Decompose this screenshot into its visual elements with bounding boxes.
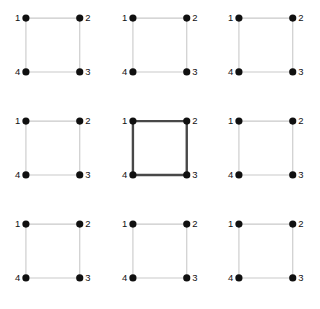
graph-node-label-3: 3 <box>299 66 304 77</box>
graph-node-2 <box>76 118 83 125</box>
graph-node-3 <box>289 68 296 75</box>
graph-node-1 <box>236 118 243 125</box>
graph-node-label-4: 4 <box>15 66 20 77</box>
graph-node-2 <box>183 221 190 228</box>
graph-node-label-4: 4 <box>228 66 233 77</box>
graph-node-4 <box>129 171 136 178</box>
graph-node-3 <box>183 274 190 281</box>
graph-node-label-2: 2 <box>299 218 304 229</box>
graph-node-label-4: 4 <box>228 272 233 283</box>
graph-drawing: 1234 <box>0 103 107 206</box>
graph-node-1 <box>22 221 29 228</box>
graph-node-label-4: 4 <box>15 272 20 283</box>
graph-node-label-2: 2 <box>299 12 304 23</box>
graph-node-3 <box>76 68 83 75</box>
graph-node-2 <box>183 118 190 125</box>
graph-node-label-2: 2 <box>192 115 197 126</box>
graph-node-label-1: 1 <box>15 115 20 126</box>
graph-node-label-2: 2 <box>299 115 304 126</box>
graph-node-label-2: 2 <box>85 218 90 229</box>
graph-node-1 <box>22 118 29 125</box>
graph-node-label-1: 1 <box>15 218 20 229</box>
graph-node-4 <box>22 68 29 75</box>
graph-node-4 <box>129 68 136 75</box>
graph-node-4 <box>129 274 136 281</box>
graph-drawing: 1234 <box>213 206 320 309</box>
graph-node-label-1: 1 <box>15 12 20 23</box>
graph-node-3 <box>183 68 190 75</box>
graph-drawing: 1234 <box>0 0 107 103</box>
graph-drawing: 1234 <box>0 206 107 309</box>
graph-node-1 <box>129 221 136 228</box>
graph-node-4 <box>236 68 243 75</box>
graph-node-2 <box>289 15 296 22</box>
graph-node-4 <box>236 274 243 281</box>
graph-node-label-3: 3 <box>85 66 90 77</box>
graph-node-label-1: 1 <box>122 218 127 229</box>
graph-node-label-2: 2 <box>192 12 197 23</box>
graph-node-label-1: 1 <box>122 12 127 23</box>
graph-panel-7: 1234 <box>0 206 107 309</box>
graph-node-2 <box>76 221 83 228</box>
graph-node-label-4: 4 <box>122 169 127 180</box>
graph-drawing: 1234 <box>107 206 214 309</box>
graph-node-3 <box>183 171 190 178</box>
graph-node-2 <box>289 221 296 228</box>
graph-node-4 <box>22 274 29 281</box>
graph-node-1 <box>129 118 136 125</box>
graph-panel-grid: 123412341234123412341234123412341234 <box>0 0 320 309</box>
graph-panel-8: 1234 <box>107 206 214 309</box>
graph-panel-3: 1234 <box>213 0 320 103</box>
graph-node-label-3: 3 <box>192 272 197 283</box>
graph-node-label-3: 3 <box>192 66 197 77</box>
graph-panel-1: 1234 <box>0 0 107 103</box>
graph-node-2 <box>289 118 296 125</box>
graph-node-label-1: 1 <box>228 115 233 126</box>
graph-node-1 <box>22 15 29 22</box>
graph-panel-9: 1234 <box>213 206 320 309</box>
graph-node-label-1: 1 <box>228 218 233 229</box>
graph-node-label-3: 3 <box>299 169 304 180</box>
graph-node-1 <box>236 15 243 22</box>
graph-node-label-4: 4 <box>122 66 127 77</box>
graph-node-label-3: 3 <box>192 169 197 180</box>
graph-drawing: 1234 <box>213 0 320 103</box>
graph-node-label-4: 4 <box>15 169 20 180</box>
graph-drawing: 1234 <box>107 103 214 206</box>
graph-node-label-2: 2 <box>85 115 90 126</box>
graph-node-label-3: 3 <box>299 272 304 283</box>
graph-node-label-2: 2 <box>85 12 90 23</box>
graph-drawing: 1234 <box>107 0 214 103</box>
graph-panel-5: 1234 <box>107 103 214 206</box>
graph-node-label-1: 1 <box>122 115 127 126</box>
graph-drawing: 1234 <box>213 103 320 206</box>
graph-node-4 <box>22 171 29 178</box>
graph-node-label-4: 4 <box>122 272 127 283</box>
graph-panel-4: 1234 <box>0 103 107 206</box>
graph-node-3 <box>76 171 83 178</box>
graph-panel-2: 1234 <box>107 0 214 103</box>
graph-node-label-3: 3 <box>85 272 90 283</box>
graph-node-3 <box>289 274 296 281</box>
graph-node-4 <box>236 171 243 178</box>
graph-node-1 <box>129 15 136 22</box>
graph-node-label-3: 3 <box>85 169 90 180</box>
graph-node-2 <box>76 15 83 22</box>
graph-node-3 <box>289 171 296 178</box>
graph-node-label-2: 2 <box>192 218 197 229</box>
graph-node-3 <box>76 274 83 281</box>
graph-panel-6: 1234 <box>213 103 320 206</box>
graph-node-2 <box>183 15 190 22</box>
graph-node-label-1: 1 <box>228 12 233 23</box>
graph-node-label-4: 4 <box>228 169 233 180</box>
graph-node-1 <box>236 221 243 228</box>
